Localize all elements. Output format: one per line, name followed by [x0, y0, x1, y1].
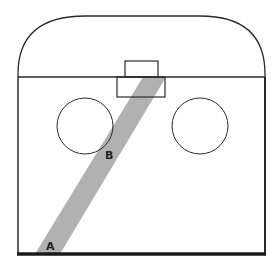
left-circle — [57, 98, 113, 154]
right-circle — [172, 98, 228, 154]
outer-enclosure-top-arc — [18, 16, 265, 77]
upper-box — [125, 61, 158, 77]
label-b: B — [105, 149, 113, 162]
diagram-canvas: B A — [0, 0, 279, 268]
label-a: A — [46, 240, 55, 253]
diagonal-band — [35, 77, 166, 254]
